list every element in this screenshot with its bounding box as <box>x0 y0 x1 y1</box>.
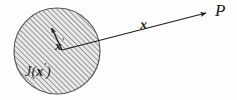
field-point-label: P <box>215 2 225 19</box>
diagram-canvas <box>0 0 237 100</box>
current-density-close-paren: ) <box>46 64 51 79</box>
current-density-argument: x <box>36 64 43 79</box>
current-density-label: J(x′) <box>25 61 51 79</box>
field-position-vector-label: x <box>140 18 147 32</box>
source-position-vector-prime: ′ <box>62 35 64 47</box>
source-position-vector-label: x′ <box>55 36 64 52</box>
figure-container: P x x′ J(x′) <box>0 0 237 100</box>
